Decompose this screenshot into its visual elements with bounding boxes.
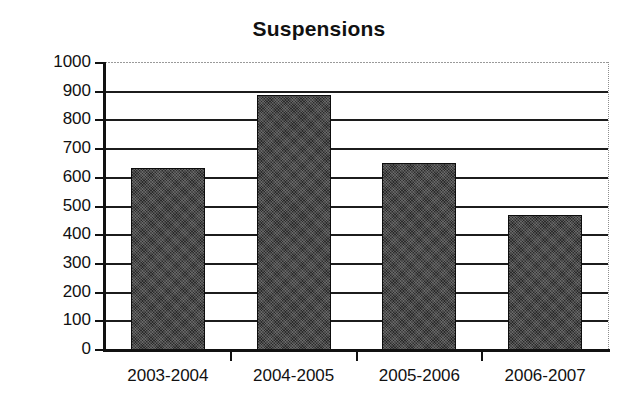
y-axis-tick bbox=[95, 292, 105, 294]
y-axis-tick-label: 200 bbox=[21, 282, 91, 302]
bar-2005-2006 bbox=[382, 163, 456, 350]
y-axis-tick-label: 900 bbox=[21, 81, 91, 101]
y-axis-tick-label: 400 bbox=[21, 224, 91, 244]
y-axis-tick-label: 800 bbox=[21, 109, 91, 129]
gridline bbox=[105, 148, 608, 150]
plot-area bbox=[105, 63, 608, 350]
y-axis-tick bbox=[95, 91, 105, 93]
bar-2004-2005 bbox=[257, 95, 331, 350]
y-axis-tick bbox=[95, 62, 105, 64]
x-axis-tick bbox=[481, 350, 483, 361]
bar-chart: Suspensions 1000900800700600500400300200… bbox=[0, 0, 638, 412]
chart-title: Suspensions bbox=[0, 17, 638, 41]
y-axis-tick bbox=[95, 206, 105, 208]
x-axis-tick-label: 2004-2005 bbox=[229, 366, 359, 386]
y-axis-tick bbox=[95, 263, 105, 265]
x-axis-tick-label: 2003-2004 bbox=[103, 366, 233, 386]
y-axis-tick bbox=[95, 349, 105, 351]
y-axis-tick-label: 700 bbox=[21, 138, 91, 158]
x-axis-tick-label: 2006-2007 bbox=[480, 366, 610, 386]
y-axis-tick-label: 300 bbox=[21, 253, 91, 273]
y-axis-tick-label: 1000 bbox=[21, 52, 91, 72]
plot-right-border bbox=[608, 62, 609, 351]
y-axis-tick-label: 500 bbox=[21, 196, 91, 216]
y-axis-tick bbox=[95, 320, 105, 322]
bar-2003-2004 bbox=[131, 168, 205, 350]
y-axis-tick bbox=[95, 119, 105, 121]
y-axis-tick bbox=[95, 234, 105, 236]
y-axis-tick-label: 100 bbox=[21, 310, 91, 330]
y-axis-tick-label: 600 bbox=[21, 167, 91, 187]
x-axis-tick bbox=[356, 350, 358, 361]
y-axis-labels: 10009008007006005004003002001000 bbox=[15, 63, 91, 350]
gridline bbox=[105, 91, 608, 93]
y-axis-tick-label: 0 bbox=[21, 339, 91, 359]
y-axis-tick bbox=[95, 148, 105, 150]
x-axis-tick-label: 2005-2006 bbox=[354, 366, 484, 386]
x-axis-tick bbox=[230, 350, 232, 361]
plot-top-border bbox=[105, 62, 608, 63]
y-axis-tick bbox=[95, 177, 105, 179]
bar-2006-2007 bbox=[508, 215, 582, 350]
gridline bbox=[105, 119, 608, 121]
